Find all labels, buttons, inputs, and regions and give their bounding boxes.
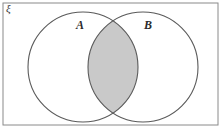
set-a-label: A: [76, 19, 84, 31]
set-b-label: B: [144, 19, 152, 31]
venn-diagram-canvas: [0, 0, 221, 137]
universal-set-symbol: ξ: [6, 3, 11, 14]
venn-diagram-figure: ξ A B: [0, 0, 221, 137]
